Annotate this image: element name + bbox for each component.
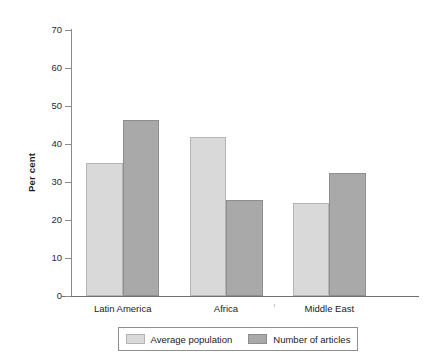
legend-swatch-number-of-articles (248, 334, 267, 344)
y-tick-label: 30 (40, 177, 62, 187)
bar (123, 120, 160, 296)
legend-label-number-of-articles: Number of articles (273, 334, 350, 345)
y-tick-label: 20 (40, 215, 62, 225)
legend-item-number-of-articles: Number of articles (248, 334, 350, 345)
y-tick-mark (65, 296, 71, 297)
y-tick-label-wrap: 10 (36, 253, 62, 263)
y-tick-label: 70 (40, 25, 62, 35)
y-tick-label: 10 (40, 253, 62, 263)
y-tick-label-wrap: 30 (36, 177, 62, 187)
legend-item-average-population: Average population (126, 334, 233, 345)
bar-chart-figure: Per cent 010203040506070 Latin AmericaAf… (0, 0, 437, 362)
legend-swatch-average-population (126, 334, 145, 344)
x-axis-category-label: Latin America (63, 303, 183, 315)
y-tick-label: 60 (40, 63, 62, 73)
plot-area (71, 30, 381, 296)
y-tick-label-wrap: 50 (36, 101, 62, 111)
bar (293, 203, 330, 296)
y-tick-label: 0 (40, 291, 62, 301)
scan-artifact-speck (274, 304, 275, 307)
x-axis-line (62, 296, 419, 297)
bar (86, 163, 123, 296)
y-tick-label-wrap: 0 (36, 291, 62, 301)
y-tick-label-wrap: 70 (36, 25, 62, 35)
bar (329, 173, 366, 296)
y-tick-label-wrap: 20 (36, 215, 62, 225)
legend-label-average-population: Average population (151, 334, 233, 345)
chart-legend: Average population Number of articles (118, 327, 358, 351)
x-axis-category-label: Africa (166, 303, 286, 315)
y-tick-label: 50 (40, 101, 62, 111)
bar (190, 137, 227, 296)
bar (226, 200, 263, 296)
x-axis-category-label: Middle East (269, 303, 389, 315)
y-tick-label-wrap: 60 (36, 63, 62, 73)
y-tick-label: 40 (40, 139, 62, 149)
y-tick-label-wrap: 40 (36, 139, 62, 149)
